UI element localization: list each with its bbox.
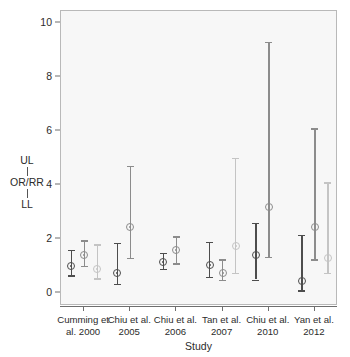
- y-tick-label: 8: [30, 70, 52, 82]
- error-bar-cap-upper: [311, 128, 318, 129]
- error-bar[interactable]: [322, 11, 333, 306]
- error-bar-cap-upper: [206, 242, 213, 243]
- error-bar-cap-upper: [232, 158, 239, 159]
- error-bar-whisker: [117, 243, 118, 284]
- data-point-marker[interactable]: [265, 203, 273, 211]
- error-bar-cap-upper: [114, 243, 121, 244]
- data-point-marker[interactable]: [80, 251, 88, 259]
- error-bar-whisker: [209, 242, 210, 277]
- error-bar-cap-lower: [298, 290, 305, 291]
- x-tick-label-line: 2012: [283, 326, 345, 338]
- error-bar-cap-upper: [219, 259, 226, 260]
- error-bar-cap-lower: [232, 273, 239, 274]
- data-point-marker[interactable]: [159, 258, 167, 266]
- error-bar[interactable]: [217, 11, 228, 306]
- x-axis-line: [60, 306, 337, 307]
- error-bar[interactable]: [112, 11, 123, 306]
- data-point-marker[interactable]: [67, 262, 75, 270]
- forest-plot-figure: UL OR/RR LL 0246810 Cumming etal. 2000Ch…: [0, 0, 350, 357]
- data-point-marker[interactable]: [113, 269, 121, 277]
- data-point-marker[interactable]: [232, 242, 240, 250]
- error-bar-cap-upper: [324, 182, 331, 183]
- error-bar[interactable]: [158, 11, 169, 306]
- error-bar-cap-lower: [81, 266, 88, 267]
- error-bar-cap-upper: [173, 236, 180, 237]
- x-tick-mark: [268, 306, 269, 311]
- error-bar-cap-lower: [219, 280, 226, 281]
- x-tick-mark: [175, 306, 176, 311]
- error-bar-cap-lower: [173, 263, 180, 264]
- data-point-marker[interactable]: [324, 254, 332, 262]
- y-tick-label: 4: [30, 178, 52, 190]
- error-bar-cap-upper: [68, 250, 75, 251]
- y-tick-label: 0: [30, 286, 52, 298]
- error-bar-cap-upper: [81, 240, 88, 241]
- error-bar-whisker: [314, 128, 315, 259]
- error-bar-cap-lower: [68, 275, 75, 276]
- data-point-marker[interactable]: [93, 265, 101, 273]
- error-bar-whisker: [130, 166, 131, 258]
- x-tick-label: Yan et al.2012: [283, 314, 345, 337]
- x-axis-title: Study: [60, 340, 337, 352]
- error-bar[interactable]: [171, 11, 182, 306]
- y-axis-label-divider-bottom: [27, 189, 28, 198]
- y-tick-label: 2: [30, 232, 52, 244]
- error-bar[interactable]: [250, 11, 261, 306]
- error-bar[interactable]: [204, 11, 215, 306]
- error-bar[interactable]: [296, 11, 307, 306]
- y-axis-label-lower-limit: LL: [2, 199, 52, 210]
- error-bar-whisker: [268, 42, 269, 257]
- error-bar-cap-upper: [160, 253, 167, 254]
- error-bar[interactable]: [125, 11, 136, 306]
- error-bar-cap-lower: [94, 278, 101, 279]
- data-point-marker[interactable]: [252, 251, 260, 259]
- error-bar[interactable]: [66, 11, 77, 306]
- x-tick-mark: [314, 306, 315, 311]
- error-bar-cap-upper: [127, 166, 134, 167]
- x-tick-label-line: Yan et al.: [283, 314, 345, 326]
- y-tick-label: 6: [30, 124, 52, 136]
- data-point-marker[interactable]: [172, 246, 180, 254]
- error-bar[interactable]: [230, 11, 241, 306]
- error-bar[interactable]: [263, 11, 274, 306]
- error-bar-cap-lower: [114, 284, 121, 285]
- error-bar-cap-lower: [252, 280, 259, 281]
- x-tick-mark: [83, 306, 84, 311]
- y-tick-label: 10: [30, 16, 52, 28]
- error-bar-cap-lower: [206, 277, 213, 278]
- error-bar-cap-lower: [160, 269, 167, 270]
- data-point-marker[interactable]: [206, 261, 214, 269]
- error-bar-whisker: [97, 244, 98, 278]
- data-point-marker[interactable]: [311, 223, 319, 231]
- error-bar[interactable]: [309, 11, 320, 306]
- error-bar-cap-upper: [265, 42, 272, 43]
- error-bar-cap-upper: [298, 235, 305, 236]
- data-point-marker[interactable]: [298, 277, 306, 285]
- x-tick-mark: [222, 306, 223, 311]
- y-axis-label-divider-top: [27, 167, 28, 176]
- plot-area: [60, 10, 337, 305]
- error-bar-cap-lower: [127, 258, 134, 259]
- error-bar[interactable]: [92, 11, 103, 306]
- error-bar-cap-lower: [265, 257, 272, 258]
- error-bar-cap-upper: [94, 244, 101, 245]
- error-bar-cap-lower: [311, 259, 318, 260]
- y-axis-label-upper-limit: UL: [2, 155, 52, 166]
- error-bar-cap-lower: [324, 273, 331, 274]
- error-bar-whisker: [235, 158, 236, 273]
- error-bar-cap-upper: [252, 223, 259, 224]
- data-point-marker[interactable]: [219, 269, 227, 277]
- data-point-marker[interactable]: [126, 223, 134, 231]
- error-bar[interactable]: [79, 11, 90, 306]
- x-tick-mark: [129, 306, 130, 311]
